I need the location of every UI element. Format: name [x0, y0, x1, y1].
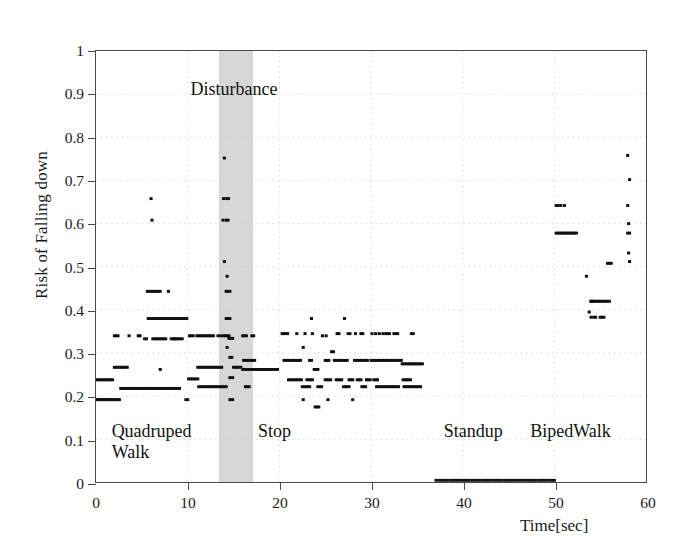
data-points-layer: [96, 51, 646, 482]
y-axis-tick: [88, 441, 96, 442]
x-axis-tick: [556, 482, 557, 490]
y-axis-tick: [88, 484, 96, 485]
grid-lines: [96, 51, 646, 482]
y-axis-tick-label: 0.4: [65, 302, 84, 320]
risk-of-falling-chart-figure: Risk of Falling down Time[sec] 00.10.20.…: [0, 0, 680, 557]
y-axis-title: Risk of Falling down: [32, 95, 52, 355]
x-axis-tick: [464, 482, 465, 490]
y-axis-tick-label: 0.9: [65, 85, 84, 103]
stop-label: Stop: [258, 421, 291, 442]
x-axis-title: Time[sec]: [520, 516, 588, 536]
y-axis-tick-label: 0.5: [65, 259, 84, 277]
y-axis-tick: [88, 268, 96, 269]
x-axis-tick-label: 40: [456, 494, 472, 512]
x-axis-tick-label: 10: [180, 494, 196, 512]
y-axis-tick-label: 0: [76, 475, 84, 493]
bipedwalk-label: BipedWalk: [530, 421, 611, 442]
y-axis-tick: [88, 397, 96, 398]
y-axis-tick-label: 0.1: [65, 432, 84, 450]
x-axis-tick: [280, 482, 281, 490]
y-axis-tick: [88, 354, 96, 355]
x-axis-tick-label: 0: [92, 494, 100, 512]
x-axis-tick-label: 60: [640, 494, 656, 512]
x-axis-tick: [188, 482, 189, 490]
y-axis-tick: [88, 224, 96, 225]
y-axis-tick-label: 0.2: [65, 388, 84, 406]
x-axis-tick-label: 50: [548, 494, 564, 512]
quadruped-walk-label: Quadruped Walk: [112, 421, 192, 463]
y-axis-tick: [88, 311, 96, 312]
disturbance-label: Disturbance: [191, 79, 278, 100]
x-axis-tick-label: 30: [364, 494, 380, 512]
x-axis-tick: [372, 482, 373, 490]
y-axis-tick-label: 0.7: [65, 172, 84, 190]
y-axis-tick-label: 1: [76, 42, 84, 60]
standup-label: Standup: [444, 421, 503, 442]
y-axis-tick: [88, 51, 96, 52]
x-axis-tick-label: 20: [272, 494, 288, 512]
y-axis-tick: [88, 138, 96, 139]
y-axis-tick-label: 0.8: [65, 129, 84, 147]
plot-area: 00.10.20.30.40.50.60.70.80.9101020304050…: [95, 50, 647, 483]
y-axis-tick-label: 0.3: [65, 345, 84, 363]
y-axis-tick: [88, 94, 96, 95]
y-axis-tick-label: 0.6: [65, 215, 84, 233]
y-axis-tick: [88, 181, 96, 182]
